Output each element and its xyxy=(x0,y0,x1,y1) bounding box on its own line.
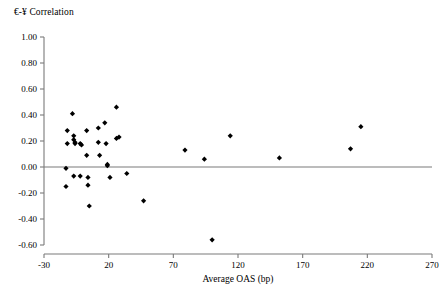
x-tick-label: 170 xyxy=(296,260,310,270)
data-point xyxy=(277,155,282,160)
y-tick-label: -0.40 xyxy=(18,214,37,224)
data-point xyxy=(85,183,90,188)
data-point xyxy=(85,175,90,180)
data-point xyxy=(65,141,70,146)
y-tick-label: 0.40 xyxy=(21,110,37,120)
data-point xyxy=(96,140,101,145)
scatter-chart: €-¥ Correlation -0.60-0.40-0.200.000.200… xyxy=(0,0,447,294)
data-point xyxy=(70,111,75,116)
x-tick-label: 20 xyxy=(104,260,114,270)
data-point xyxy=(141,198,146,203)
data-point xyxy=(107,175,112,180)
data-point xyxy=(114,105,119,110)
data-point xyxy=(78,174,83,179)
x-axis: -302070120170220270 xyxy=(38,254,439,270)
data-point xyxy=(63,184,68,189)
data-point xyxy=(210,237,215,242)
data-point xyxy=(358,124,363,129)
y-tick-label: 0.00 xyxy=(21,162,37,172)
data-point xyxy=(103,141,108,146)
chart-canvas: -0.60-0.40-0.200.000.200.400.600.801.00 … xyxy=(0,0,447,294)
data-point xyxy=(124,171,129,176)
data-point xyxy=(97,153,102,158)
data-point xyxy=(65,128,70,133)
data-point xyxy=(87,203,92,208)
y-tick-label: 0.20 xyxy=(21,136,37,146)
y-tick-label: -0.60 xyxy=(18,240,37,250)
y-tick-label: 1.00 xyxy=(21,32,37,42)
x-axis-title: Average OAS (bp) xyxy=(202,274,273,285)
x-tick-label: 120 xyxy=(231,260,245,270)
x-tick-label: 220 xyxy=(361,260,375,270)
x-tick-label: 70 xyxy=(169,260,179,270)
y-tick-label: 0.80 xyxy=(21,58,37,68)
data-point xyxy=(202,157,207,162)
data-point xyxy=(102,120,107,125)
y-tick-label: 0.60 xyxy=(21,84,37,94)
data-points xyxy=(63,105,363,243)
x-tick-label: -30 xyxy=(38,260,50,270)
data-point xyxy=(84,128,89,133)
data-point xyxy=(182,148,187,153)
y-axis: -0.60-0.40-0.200.000.200.400.600.801.00 xyxy=(18,32,44,250)
data-point xyxy=(71,174,76,179)
data-point xyxy=(348,146,353,151)
data-point xyxy=(228,133,233,138)
data-point xyxy=(96,125,101,130)
x-tick-label: 270 xyxy=(425,260,439,270)
y-tick-label: -0.20 xyxy=(18,188,37,198)
data-point xyxy=(84,153,89,158)
